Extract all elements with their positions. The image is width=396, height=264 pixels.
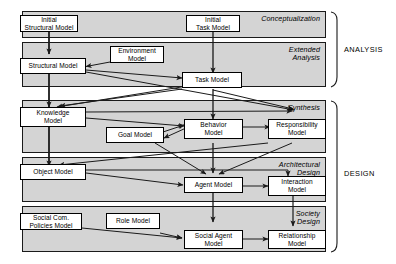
node-environment-model[interactable]: Environment Model — [110, 46, 164, 63]
node-object-model[interactable]: Object Model — [20, 164, 86, 180]
phase-label-conceptualization: Conceptualization — [228, 15, 320, 23]
node-knowledge-model[interactable]: Knowledge Model — [20, 107, 86, 127]
phase-label-synthesis: Synthesis — [228, 104, 320, 112]
node-social-com-policies-model[interactable]: Social Com. Policies Model — [20, 213, 82, 230]
phase-label-extended-analysis: Extended Analysis — [228, 46, 320, 62]
phase-label-architectural-design: Architectural Design — [228, 161, 320, 177]
group-label-design: DESIGN — [344, 169, 375, 178]
node-task-model[interactable]: Task Model — [182, 72, 242, 88]
node-agent-model[interactable]: Agent Model — [184, 177, 243, 193]
node-goal-model[interactable]: Goal Model — [106, 127, 164, 143]
node-responsibility-model[interactable]: Responsibility Model — [268, 119, 326, 139]
node-social-agent-model[interactable]: Social Agent Model — [184, 230, 243, 249]
node-relationship-model[interactable]: Relationship Model — [268, 230, 326, 249]
node-structural-model[interactable]: Structural Model — [20, 58, 86, 74]
bracket-design — [331, 101, 337, 252]
phase-label-society-design: Society Design — [228, 210, 320, 226]
node-initial-task-model[interactable]: Initial Task Model — [186, 15, 240, 32]
node-interaction-model[interactable]: Interaction Model — [268, 176, 326, 196]
node-role-model[interactable]: Role Model — [106, 213, 160, 229]
bracket-analysis — [331, 12, 337, 87]
group-label-analysis: ANALYSIS — [344, 45, 383, 54]
diagram-canvas: Conceptualization Extended Analysis Synt… — [0, 0, 396, 264]
node-behavior-model[interactable]: Behavior Model — [184, 119, 243, 139]
node-initial-structural-model[interactable]: Initial Structural Model — [20, 15, 78, 32]
